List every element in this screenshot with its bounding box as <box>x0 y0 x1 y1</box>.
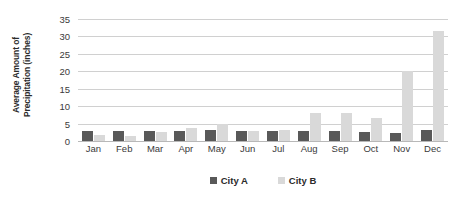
y-axis-tick-label: 30 <box>59 31 70 42</box>
plot-area <box>78 19 448 141</box>
y-axis-tick-labels: 35302520151050 <box>44 0 74 150</box>
bar-city-b-nov <box>402 71 413 141</box>
bar-city-a-apr <box>174 131 185 141</box>
x-axis-tick-labels: JanFebMarAprMayJunJulAugSepOctNovDec <box>78 143 448 159</box>
x-axis-tick-label: Aug <box>294 143 325 159</box>
y-axis-tick-label: 10 <box>59 101 70 112</box>
bar-group <box>325 19 356 141</box>
bar-group <box>201 19 232 141</box>
bar-group <box>355 19 386 141</box>
bar-city-b-mar <box>156 132 167 141</box>
bar-city-b-jan <box>94 135 105 141</box>
bar-city-b-jun <box>248 131 259 141</box>
x-axis-tick-label: Dec <box>417 143 448 159</box>
precipitation-bar-chart: Average Amount of Precipitation (inches)… <box>0 0 464 199</box>
bar-city-b-jul <box>279 130 290 141</box>
y-axis-tick-label: 15 <box>59 83 70 94</box>
bar-group <box>170 19 201 141</box>
y-axis-tick-label: 20 <box>59 66 70 77</box>
bar-group <box>263 19 294 141</box>
axis-baseline <box>78 141 448 142</box>
bar-group <box>417 19 448 141</box>
x-axis-tick-label: Oct <box>355 143 386 159</box>
bars-layer <box>78 19 448 141</box>
x-axis-tick-label: Jul <box>263 143 294 159</box>
bar-group <box>78 19 109 141</box>
x-axis-tick-label: Feb <box>109 143 140 159</box>
x-axis-tick-label: Mar <box>140 143 171 159</box>
x-axis-tick-label: Jan <box>78 143 109 159</box>
legend-item[interactable]: City B <box>278 175 316 186</box>
x-axis-tick-label: Jun <box>232 143 263 159</box>
x-axis-tick-label: May <box>201 143 232 159</box>
y-axis-title-line-1: Average Amount of <box>11 37 21 113</box>
legend-item[interactable]: City A <box>210 175 248 186</box>
bar-city-b-sep <box>341 113 352 141</box>
bar-city-b-dec <box>433 31 444 141</box>
bar-city-a-feb <box>113 131 124 141</box>
bar-city-b-oct <box>371 118 382 141</box>
y-axis-tick-label: 5 <box>65 118 70 129</box>
x-axis-tick-label: Sep <box>325 143 356 159</box>
bar-city-a-nov <box>390 133 401 141</box>
bar-city-b-feb <box>125 136 136 141</box>
bar-city-a-sep <box>329 131 340 141</box>
y-axis-title-line-2: Precipitation (inches) <box>22 33 32 117</box>
bar-group <box>109 19 140 141</box>
bar-city-a-dec <box>421 130 432 141</box>
bar-group <box>140 19 171 141</box>
legend-label: City B <box>289 175 316 186</box>
chart-legend: City ACity B <box>78 172 448 188</box>
bar-city-a-oct <box>359 132 370 141</box>
y-axis-tick-label: 35 <box>59 14 70 25</box>
bar-group <box>294 19 325 141</box>
y-axis-title-text: Average Amount of Precipitation (inches) <box>11 33 33 117</box>
bar-city-a-jul <box>267 131 278 141</box>
bar-city-b-may <box>217 124 228 141</box>
x-axis-tick-label: Apr <box>170 143 201 159</box>
bar-city-b-aug <box>310 113 321 141</box>
x-axis-tick-label: Nov <box>386 143 417 159</box>
y-axis-tick-label: 25 <box>59 48 70 59</box>
bar-city-a-jan <box>82 131 93 141</box>
legend-swatch-icon <box>210 177 217 184</box>
bar-group <box>386 19 417 141</box>
y-axis-tick-label: 0 <box>65 136 70 147</box>
legend-label: City A <box>221 175 248 186</box>
bar-city-a-aug <box>298 131 309 141</box>
bar-city-a-may <box>205 130 216 141</box>
bar-group <box>232 19 263 141</box>
bar-city-a-jun <box>236 131 247 141</box>
bar-city-a-mar <box>144 131 155 141</box>
bar-city-b-apr <box>186 128 197 141</box>
y-axis-title: Average Amount of Precipitation (inches) <box>0 0 44 150</box>
legend-swatch-icon <box>278 177 285 184</box>
